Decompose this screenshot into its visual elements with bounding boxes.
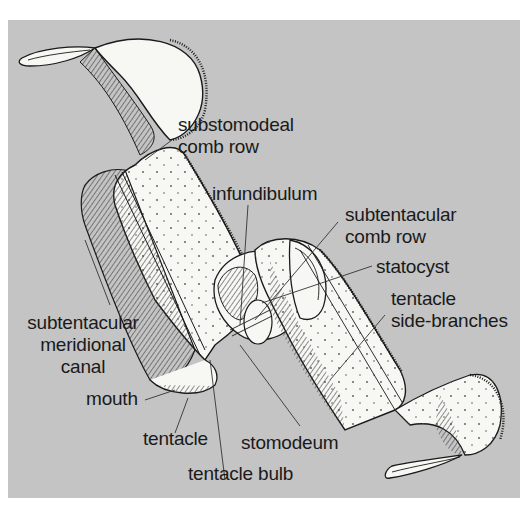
label-statocyst: statocyst	[376, 256, 449, 278]
label-tentacle: tentacle	[143, 428, 208, 450]
label-subtentacular-meridional-canal: subtentacular meridional canal	[22, 312, 144, 378]
label-tentacle-side-branches: tentacle side-branches	[391, 288, 508, 332]
label-infundibulum: infundibulum	[212, 183, 317, 205]
label-subtentacular-comb-row: subtentacular comb row	[345, 204, 456, 248]
label-tentacle-bulb: tentacle bulb	[188, 463, 293, 485]
label-mouth: mouth	[86, 388, 138, 410]
label-stomodeum: stomodeum	[241, 432, 338, 454]
label-substomodeal-comb-row: substomodeal comb row	[178, 114, 294, 158]
